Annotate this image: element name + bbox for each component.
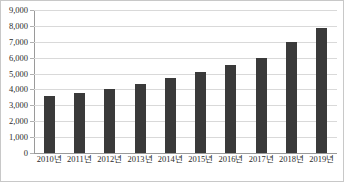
x-axis-tick-label: 2018년 bbox=[279, 155, 304, 164]
y-axis-tick-label: 0 bbox=[24, 149, 28, 158]
x-axis-tick-label: 2010년 bbox=[37, 155, 62, 164]
y-axis-tick-label: 7,000 bbox=[9, 38, 28, 47]
bar bbox=[195, 72, 206, 153]
y-axis-tick-label: 3,000 bbox=[9, 101, 28, 110]
bar bbox=[225, 65, 236, 153]
x-axis-tick-label: 2016년 bbox=[218, 155, 243, 164]
bar bbox=[44, 96, 55, 153]
plot-area: 01,0002,0003,0004,0005,0006,0007,0008,00… bbox=[34, 10, 337, 153]
y-axis-tick-label: 6,000 bbox=[9, 53, 28, 62]
x-axis-tick-label: 2011년 bbox=[67, 155, 92, 164]
x-axis-tick-label: 2017년 bbox=[249, 155, 274, 164]
x-axis-tick-label: 2019년 bbox=[309, 155, 334, 164]
bar bbox=[286, 42, 297, 153]
bar bbox=[256, 58, 267, 153]
bar bbox=[104, 89, 115, 154]
bars bbox=[34, 10, 337, 153]
x-axis-tick-label: 2015년 bbox=[188, 155, 213, 164]
y-axis-tick-label: 8,000 bbox=[9, 22, 28, 31]
bar-chart: 01,0002,0003,0004,0005,0006,0007,0008,00… bbox=[0, 0, 344, 182]
x-axis-tick-label: 2014년 bbox=[158, 155, 183, 164]
y-axis-tick-label: 4,000 bbox=[9, 85, 28, 94]
bar bbox=[74, 93, 85, 153]
bar bbox=[135, 84, 146, 153]
y-axis-tick bbox=[30, 153, 34, 154]
y-axis-tick-label: 9,000 bbox=[9, 6, 28, 15]
x-axis-tick-label: 2012년 bbox=[97, 155, 122, 164]
bar bbox=[316, 28, 327, 153]
x-axis-labels: 2010년2011년2012년2013년2014년2015년2016년2017년… bbox=[34, 155, 337, 175]
x-axis-tick-label: 2013년 bbox=[128, 155, 153, 164]
y-axis-tick-label: 1,000 bbox=[9, 133, 28, 142]
y-axis-tick-label: 5,000 bbox=[9, 69, 28, 78]
y-axis-tick-label: 2,000 bbox=[9, 117, 28, 126]
bar bbox=[165, 78, 176, 153]
